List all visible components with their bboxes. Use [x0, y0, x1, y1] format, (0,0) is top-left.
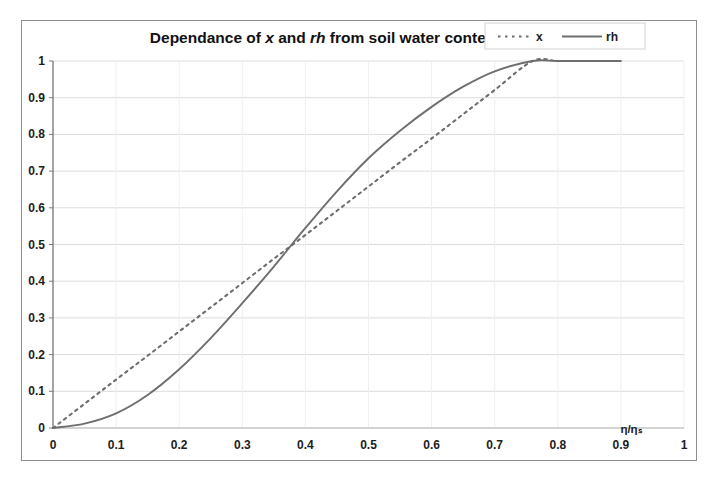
y-tick-label: 0.5 — [28, 238, 45, 252]
x-tick-labels: 00.10.20.30.40.50.60.70.80.91 — [50, 438, 688, 452]
x-tick-label: 0.2 — [171, 438, 188, 452]
y-tick-label: 0.2 — [28, 348, 45, 362]
x-tick-label: 0.9 — [613, 438, 630, 452]
y-tick-label: 0.8 — [28, 127, 45, 141]
chart-title: Dependance of x and rh from soil water c… — [150, 29, 514, 46]
y-tick-label: 0.7 — [28, 164, 45, 178]
legend-label-x: x — [536, 30, 543, 44]
x-tick-label: 1 — [681, 438, 688, 452]
x-tick-label: 0.5 — [360, 438, 377, 452]
y-tick-label: 0 — [38, 421, 45, 435]
chart-legend: x rh — [485, 23, 645, 49]
y-tick-label: 0.9 — [28, 91, 45, 105]
x-axis-label: η/ηₛ — [620, 423, 642, 435]
legend-label-rh: rh — [606, 30, 618, 44]
chart-plot: 00.10.20.30.40.50.60.70.80.91 00.10.20.3… — [22, 21, 696, 460]
y-tick-marks — [49, 61, 53, 428]
chart-frame: 00.10.20.30.40.50.60.70.80.91 00.10.20.3… — [21, 20, 697, 461]
y-tick-label: 1 — [38, 54, 45, 68]
y-tick-label: 0.4 — [28, 274, 45, 288]
x-tick-label: 0.1 — [108, 438, 125, 452]
x-tick-label: 0.4 — [297, 438, 314, 452]
x-tick-label: 0.6 — [423, 438, 440, 452]
y-tick-label: 0.3 — [28, 311, 45, 325]
series-line-x — [53, 59, 621, 428]
x-tick-label: 0.8 — [549, 438, 566, 452]
x-tick-label: 0.3 — [234, 438, 251, 452]
x-tick-label: 0 — [50, 438, 57, 452]
y-tick-label: 0.6 — [28, 201, 45, 215]
x-tick-label: 0.7 — [486, 438, 503, 452]
y-tick-labels: 00.10.20.30.40.50.60.70.80.91 — [28, 54, 45, 435]
figure-canvas: 00.10.20.30.40.50.60.70.80.91 00.10.20.3… — [0, 0, 717, 478]
y-tick-label: 0.1 — [28, 384, 45, 398]
